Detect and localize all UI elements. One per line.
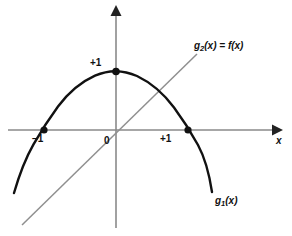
y-axis (111, 5, 122, 228)
y-tick-label-plus-one: +1 (90, 58, 101, 68)
x-axis-label: x (276, 136, 282, 146)
x-axis (8, 125, 283, 136)
y-axis-arrow-icon (111, 5, 122, 16)
x-axis-arrow-icon (272, 125, 283, 136)
curve-label-g1-tail: (x) (225, 195, 237, 206)
plot-svg (0, 0, 292, 236)
origin-label: 0 (104, 136, 110, 146)
curve-label-g1: g1(x) (215, 196, 238, 207)
curve-label-g2-tail: (x) = f(x) (204, 40, 243, 51)
marker-intersection-right (184, 126, 191, 133)
curve-label-g2: g2(x) = f(x) (194, 41, 243, 52)
x-tick-label-plus-one: +1 (160, 134, 171, 144)
x-tick-label-minus-one: −1 (32, 134, 43, 144)
figure-canvas: +1 −1 +1 0 x g2(x) = f(x) g1(x) (0, 0, 292, 236)
marker-vertex (112, 68, 120, 76)
